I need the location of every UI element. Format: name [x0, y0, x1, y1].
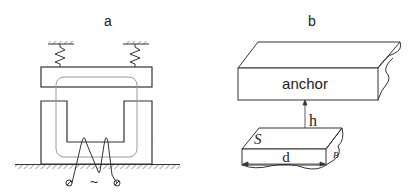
anchor-label: anchor: [282, 75, 328, 92]
terminal-left-icon: [66, 180, 72, 186]
spring-left-icon: [48, 41, 74, 67]
panel-b-label: b: [308, 13, 316, 29]
diagram-canvas: a: [0, 0, 416, 195]
gap-label: h: [309, 112, 317, 129]
surface-label: S: [254, 131, 262, 147]
ac-source-symbol: ~: [90, 174, 98, 190]
thickness-label: B: [333, 150, 339, 160]
panel-b: b anchor h S d: [238, 13, 401, 169]
ground-hatch: [15, 165, 180, 169]
flux-path: [56, 77, 137, 157]
panel-a: a: [15, 13, 180, 190]
spring-right-icon: [123, 41, 149, 67]
width-label: d: [282, 149, 290, 165]
terminal-right-icon: [114, 180, 120, 186]
panel-a-label: a: [104, 13, 112, 29]
